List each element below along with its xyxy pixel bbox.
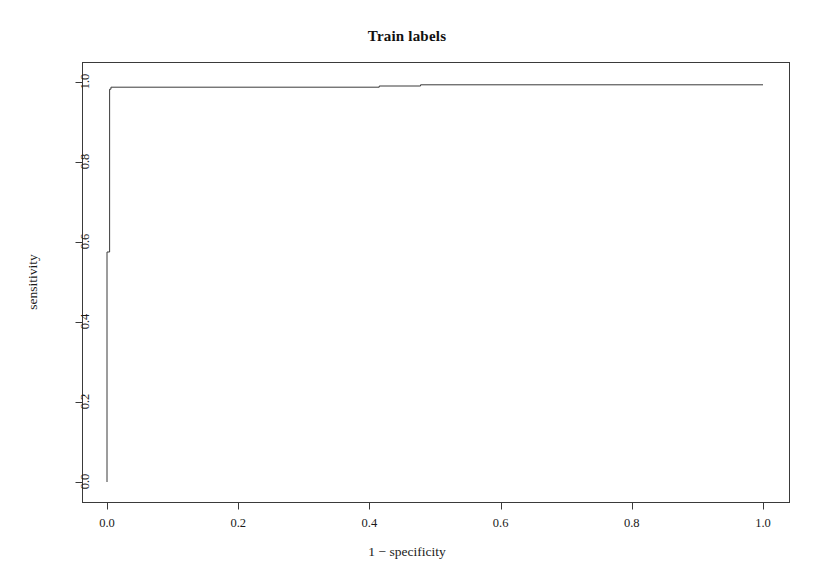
- y-axis-tick-label: 0.8: [78, 154, 93, 170]
- x-axis-tick-label: 1.0: [755, 516, 771, 531]
- y-axis-title: sensitivity: [25, 254, 41, 310]
- x-axis-tick-label: 0.4: [362, 516, 378, 531]
- plot-canvas: [0, 0, 814, 583]
- x-axis-tick-label: 0.6: [493, 516, 509, 531]
- x-axis-tick-label: 0.8: [624, 516, 640, 531]
- roc-plot-figure: Train labels 0.00.20.40.60.81.0 0.00.20.…: [0, 0, 814, 583]
- roc-curve-line: [107, 85, 763, 482]
- plot-frame-box: [83, 63, 790, 503]
- x-axis-title: 1 − specificity: [0, 544, 814, 560]
- x-axis-ticks: [108, 503, 764, 510]
- x-axis-tick-label: 0.0: [99, 516, 115, 531]
- y-axis-tick-label: 0.0: [78, 474, 93, 490]
- y-axis-ticks: [76, 83, 83, 483]
- y-axis-tick-label: 1.0: [78, 74, 93, 90]
- y-axis-tick-label: 0.4: [78, 314, 93, 330]
- y-axis-tick-label: 0.6: [78, 234, 93, 250]
- x-axis-tick-label: 0.2: [230, 516, 246, 531]
- y-axis-tick-label: 0.2: [78, 394, 93, 410]
